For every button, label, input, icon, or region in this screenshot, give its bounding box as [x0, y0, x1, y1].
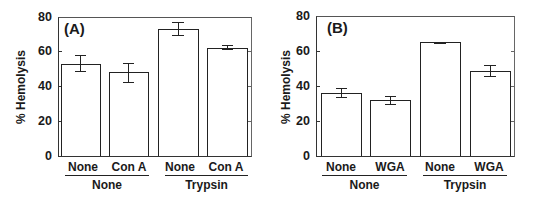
x-tick-label: None — [316, 160, 366, 174]
y-tick-label: 60 — [286, 45, 310, 57]
error-cap — [385, 104, 396, 105]
y-tick-label: 0 — [286, 150, 310, 162]
panel-label: (B) — [327, 19, 348, 36]
y-tick-label: 80 — [286, 10, 310, 22]
group-underline — [423, 175, 507, 176]
x-tick-label: WGA — [464, 160, 514, 174]
y-tick-right — [511, 121, 514, 122]
group-underline — [322, 175, 407, 176]
y-tick-right — [511, 51, 514, 52]
x-tick-label: WGA — [365, 160, 415, 174]
group-label: Trypsin — [423, 178, 507, 192]
x-tick-label: None — [415, 160, 465, 174]
y-tick-right — [511, 86, 514, 87]
error-bar — [390, 96, 391, 104]
y-tick-label: 40 — [286, 80, 310, 92]
bar-none-none — [321, 93, 362, 156]
error-bar — [341, 88, 342, 97]
error-cap — [385, 96, 396, 97]
error-cap — [484, 76, 496, 77]
group-label: None — [322, 178, 407, 192]
y-tick — [316, 86, 320, 87]
bar-trypsin-none — [420, 42, 461, 156]
bar-trypsin-wga — [470, 71, 511, 156]
y-tick — [316, 121, 320, 122]
error-cap — [336, 97, 347, 98]
bar-none-wga — [370, 100, 411, 156]
error-cap — [434, 42, 446, 44]
error-bar — [490, 65, 491, 76]
y-tick — [316, 51, 320, 52]
y-tick-label: 20 — [286, 115, 310, 127]
error-cap — [484, 65, 496, 66]
error-cap — [336, 88, 347, 89]
chart-panel-b: % Hemolysis 80 60 40 20 0 (B) None WGA N… — [0, 0, 534, 199]
